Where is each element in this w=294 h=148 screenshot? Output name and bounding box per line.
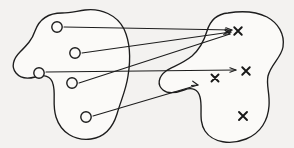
domain-element-circle [81,112,91,122]
domain-element-circle [52,22,62,32]
codomain-blob-outline [159,12,283,142]
domain-element-circle [34,68,44,78]
domain-element-circle [67,78,77,88]
codomain-set-group [159,12,283,142]
domain-element-circle [70,48,80,58]
set-mapping-figure [0,0,294,148]
domain-set-group [13,10,129,140]
domain-blob-outline [13,10,129,140]
diagram-canvas [0,0,294,148]
